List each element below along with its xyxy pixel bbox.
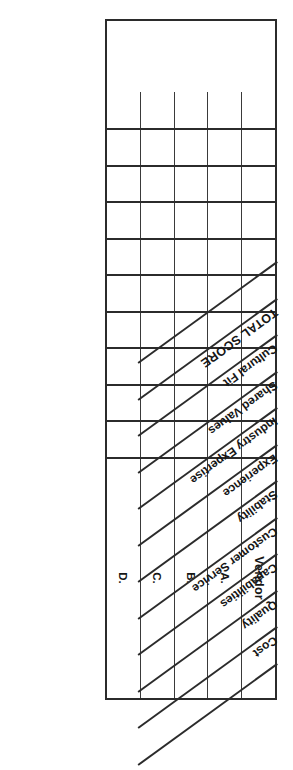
score-cell[interactable] xyxy=(140,131,174,166)
total-score-cell[interactable] xyxy=(174,92,208,129)
score-cell[interactable] xyxy=(140,277,174,312)
criterion-spacer-cell xyxy=(241,92,275,129)
score-cell[interactable] xyxy=(107,131,140,166)
table-row xyxy=(107,238,275,275)
score-cell[interactable] xyxy=(207,167,241,202)
table-row xyxy=(107,202,275,239)
score-cell[interactable] xyxy=(207,131,241,166)
total-score-cell[interactable] xyxy=(140,92,174,129)
score-cell[interactable] xyxy=(107,277,140,312)
score-cell[interactable] xyxy=(207,204,241,239)
score-cell[interactable] xyxy=(207,240,241,275)
table-row-total xyxy=(107,92,275,129)
total-score-cell[interactable] xyxy=(107,92,140,129)
score-cell[interactable] xyxy=(140,204,174,239)
table-row xyxy=(107,129,275,166)
score-cell[interactable] xyxy=(174,240,208,275)
score-cell[interactable] xyxy=(174,167,208,202)
total-score-cell[interactable] xyxy=(207,92,241,129)
criterion-spacer-cell xyxy=(241,131,275,166)
table-row xyxy=(107,165,275,202)
score-cell[interactable] xyxy=(140,240,174,275)
score-cell[interactable] xyxy=(107,167,140,202)
criterion-spacer-cell xyxy=(241,204,275,239)
score-cell[interactable] xyxy=(140,167,174,202)
score-cell[interactable] xyxy=(107,204,140,239)
score-cell[interactable] xyxy=(107,313,140,348)
score-cell[interactable] xyxy=(174,277,208,312)
criterion-spacer-cell xyxy=(241,167,275,202)
score-cell[interactable] xyxy=(107,240,140,275)
score-cell[interactable] xyxy=(174,131,208,166)
score-cell[interactable] xyxy=(174,204,208,239)
